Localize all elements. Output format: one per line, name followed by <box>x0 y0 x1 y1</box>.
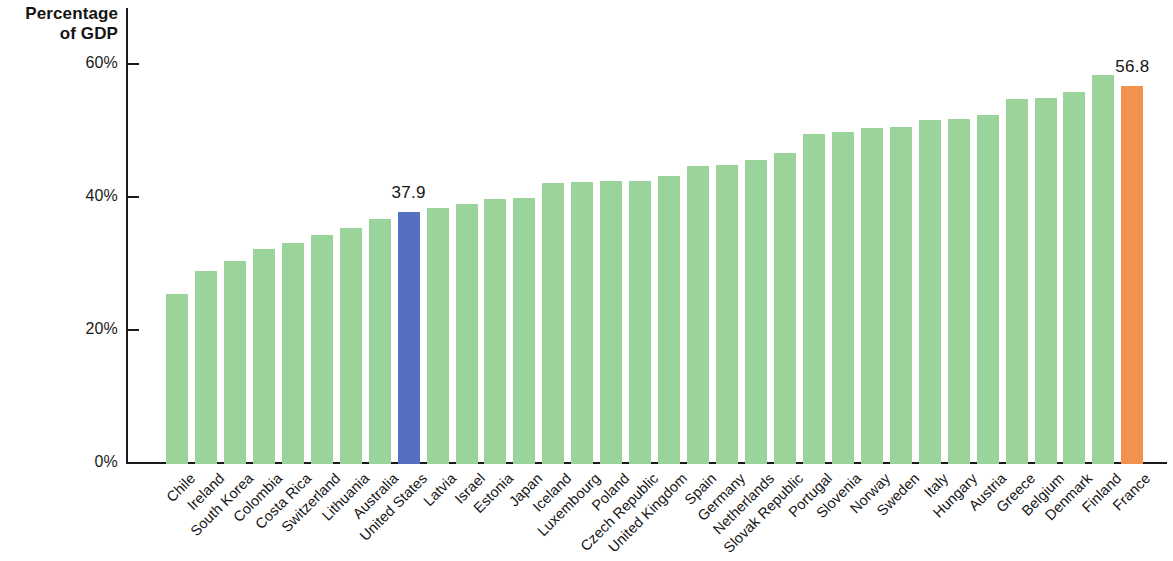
bar-norway <box>861 128 883 464</box>
bar-chart: Percentage of GDP 60%40%20%0% 37.956.8 C… <box>0 0 1173 561</box>
bar-estonia <box>484 199 506 464</box>
bar-denmark <box>1063 92 1085 464</box>
bar-slovenia <box>832 132 854 465</box>
bar-finland <box>1092 75 1114 464</box>
bar-japan <box>513 198 535 464</box>
bar-chile <box>166 294 188 464</box>
bar-hungary <box>948 119 970 464</box>
bar-czech-republic <box>629 181 651 464</box>
bar-ireland <box>195 271 217 464</box>
bar-france <box>1121 86 1143 464</box>
bar-costa-rica <box>282 243 304 464</box>
bar-sweden <box>890 127 912 464</box>
bar-iceland <box>542 183 564 464</box>
bar-colombia <box>253 249 275 464</box>
bar-slovak-republic <box>774 153 796 464</box>
bar-australia <box>369 219 391 464</box>
bar-value-label-france: 56.8 <box>1097 57 1167 77</box>
bar-luxembourg <box>571 182 593 464</box>
bar-belgium <box>1035 98 1057 464</box>
bar-value-label-united-states: 37.9 <box>374 183 444 203</box>
bar-poland <box>600 181 622 464</box>
bar-israel <box>456 204 478 464</box>
bar-netherlands <box>745 160 767 464</box>
bar-south-korea <box>224 261 246 464</box>
bar-greece <box>1006 99 1028 464</box>
bar-latvia <box>427 208 449 464</box>
bar-spain <box>687 166 709 464</box>
bar-portugal <box>803 134 825 464</box>
bar-switzerland <box>311 235 333 464</box>
bar-italy <box>919 120 941 464</box>
bar-lithuania <box>340 228 362 464</box>
bar-united-kingdom <box>658 176 680 464</box>
bar-united-states <box>398 212 420 464</box>
bar-austria <box>977 115 999 464</box>
bar-germany <box>716 165 738 464</box>
